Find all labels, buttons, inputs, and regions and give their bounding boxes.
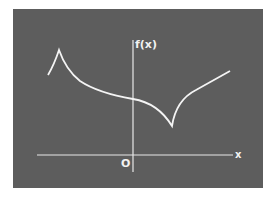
y-axis-label: f(x) <box>135 38 157 51</box>
function-curve <box>48 50 230 126</box>
x-axis-label: x <box>235 149 242 160</box>
origin-label: O <box>121 157 130 170</box>
function-graph: f(x) x O <box>0 0 276 198</box>
